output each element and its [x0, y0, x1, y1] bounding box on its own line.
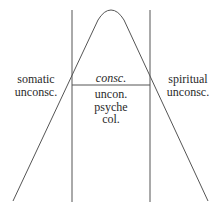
somatic-unconscious-label: unconsc.	[6, 86, 66, 99]
spiritual-label: spiritual	[158, 73, 218, 86]
center-region-label: uncon. psyche col.	[76, 88, 146, 126]
right-region-label: spiritual unconsc.	[158, 73, 218, 98]
conscious-label: consc.	[76, 72, 146, 85]
spiritual-unconscious-label: unconsc.	[158, 86, 218, 99]
somatic-label: somatic	[6, 73, 66, 86]
collective-label: col.	[76, 113, 146, 126]
unconscious-label: uncon.	[76, 88, 146, 101]
left-region-label: somatic unconsc.	[6, 73, 66, 98]
